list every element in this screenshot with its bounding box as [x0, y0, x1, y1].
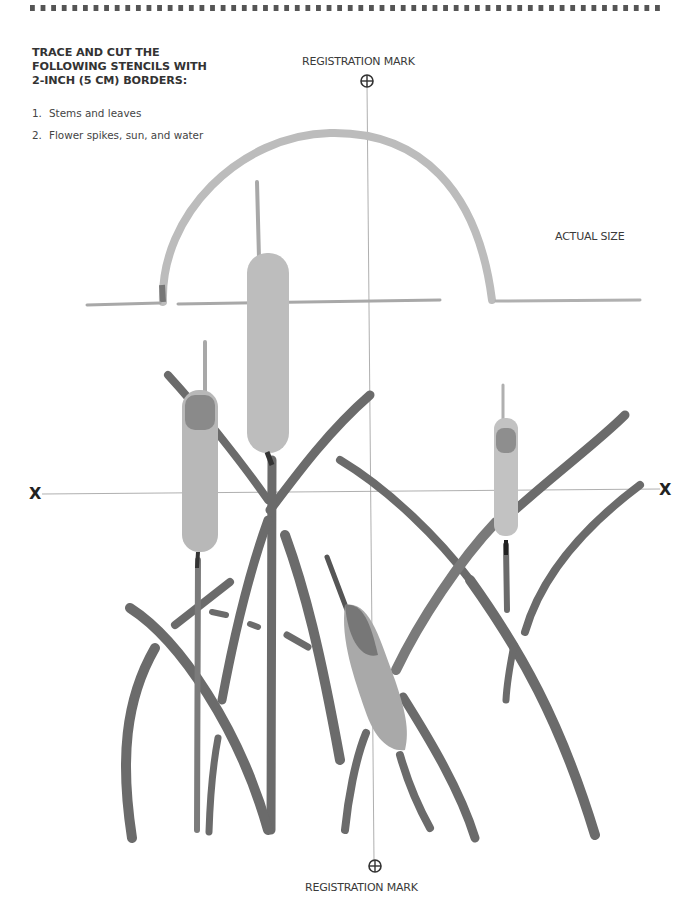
flower-spike-diagonal — [327, 557, 407, 750]
leaf-fragment — [287, 635, 308, 647]
leaf — [403, 697, 475, 838]
flower-spike-tall — [247, 182, 289, 465]
leaf — [126, 648, 155, 838]
vertical-guide-line — [367, 84, 374, 862]
stem — [271, 460, 272, 830]
water-line-middle — [178, 300, 440, 304]
crosshair-circle-icon — [369, 860, 381, 872]
flower-spike-right — [494, 385, 518, 555]
sun-arc-base — [162, 285, 163, 302]
stem — [400, 755, 430, 828]
water-line-left — [87, 303, 160, 305]
crosshair-circle-icon — [361, 75, 373, 87]
stem — [197, 560, 198, 830]
leaf — [209, 738, 218, 832]
flower-spike-left — [182, 342, 218, 568]
leaf-fragment — [212, 612, 226, 615]
leaf-fragment — [250, 624, 258, 627]
leaf — [506, 645, 514, 700]
water-line-right — [496, 300, 640, 301]
leaf — [515, 415, 625, 510]
leaf — [222, 520, 268, 700]
leaf — [340, 460, 470, 580]
sun-arc — [163, 133, 492, 302]
horizontal-guide-line — [42, 489, 660, 494]
leaf — [525, 485, 640, 632]
cattail-illustration — [0, 0, 692, 913]
leaf — [175, 582, 230, 625]
leaf — [345, 733, 366, 830]
